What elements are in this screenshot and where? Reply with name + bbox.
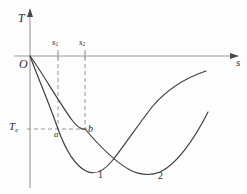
x-tick-label-s2-sub: 2 xyxy=(83,41,86,47)
x-tick-label-s1: s1 xyxy=(52,38,58,48)
curve-2 xyxy=(30,56,208,174)
thermodynamic-chart: T s O s1 s2 Te a b 1 2 xyxy=(0,0,247,194)
curve-label-1: 1 xyxy=(98,170,103,180)
origin-label: O xyxy=(19,58,28,70)
y-axis-label: T xyxy=(18,12,25,24)
x-tick-label-s1-sub: 1 xyxy=(56,41,59,47)
y-tick-label-te-sub: e xyxy=(15,126,18,133)
curve-1 xyxy=(30,56,206,173)
point-label-b: b xyxy=(88,124,93,134)
x-axis-label: s xyxy=(236,57,240,68)
x-tick-label-s2: s2 xyxy=(79,38,85,48)
curve-label-2: 2 xyxy=(158,171,163,181)
y-tick-label-te: Te xyxy=(9,121,18,133)
point-label-a: a xyxy=(54,130,59,139)
y-axis-arrow-icon xyxy=(27,8,33,17)
chart-canvas xyxy=(0,0,247,194)
